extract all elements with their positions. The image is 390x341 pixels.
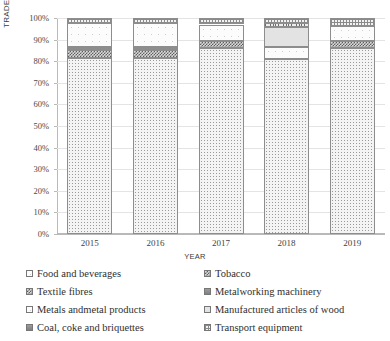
y-axis-tick-label: 10% <box>9 208 49 217</box>
legend-row: Metals andmetal productsManufactured art… <box>26 300 378 318</box>
legend-swatch-icon <box>26 288 33 295</box>
legend-row: Food and beveragesTobacco <box>26 264 378 282</box>
y-axis-tick-label: 0% <box>9 230 49 239</box>
legend-item[interactable]: Metalworking machinery <box>204 286 378 297</box>
stacked-column-chart: TRADE VALUE IN THOUSAND OF USD 0%10%20%3… <box>0 0 390 341</box>
bar-segment <box>67 23 112 47</box>
legend-label: Textile fibres <box>37 286 93 297</box>
bar-segment <box>330 26 375 41</box>
y-axis-tick-label: 50% <box>9 122 49 131</box>
x-axis-tick-label: 2017 <box>191 238 251 248</box>
legend-swatch-icon <box>204 324 211 331</box>
bar-segment <box>330 48 375 234</box>
legend-row: Coal, coke and briquettesTransport equip… <box>26 318 378 336</box>
bar-segment <box>264 59 309 234</box>
legend-label: Coal, coke and briquettes <box>37 322 144 333</box>
bar-segment <box>199 41 244 49</box>
x-axis-tick-label: 2018 <box>257 238 317 248</box>
bar-segment <box>264 23 309 26</box>
bar-segment <box>133 58 178 234</box>
bar-2016 <box>133 18 178 234</box>
legend-label: Tobacco <box>215 268 250 279</box>
y-axis-tick-mark <box>54 18 57 19</box>
legend-swatch-icon <box>26 306 33 313</box>
y-axis-tick-mark <box>54 234 57 235</box>
legend-item[interactable]: Tobacco <box>204 268 378 279</box>
y-axis-tick-label: 100% <box>9 14 49 23</box>
y-axis-tick-label: 20% <box>9 187 49 196</box>
bar-segment <box>133 50 178 58</box>
legend-swatch-icon <box>204 288 211 295</box>
bar-2018 <box>264 18 309 234</box>
legend-label: Food and beverages <box>37 268 121 279</box>
bar-segment <box>330 41 375 49</box>
y-axis-tick-label: 90% <box>9 36 49 45</box>
y-axis-tick-mark <box>54 212 57 213</box>
chart-legend: Food and beveragesTobaccoTextile fibresM… <box>26 264 378 336</box>
y-axis-tick-mark <box>54 169 57 170</box>
plot-area: 0%10%20%30%40%50%60%70%80%90%100% <box>57 18 385 234</box>
x-axis-tick-label: 2015 <box>60 238 120 248</box>
bar-segment <box>199 25 244 41</box>
bar-segment <box>199 48 244 234</box>
y-axis-tick-label: 60% <box>9 100 49 109</box>
legend-item[interactable]: Metals andmetal products <box>26 304 204 315</box>
y-axis-tick-label: 70% <box>9 79 49 88</box>
bar-segment <box>67 58 112 234</box>
legend-label: Metalworking machinery <box>215 286 321 297</box>
bar-segment <box>199 18 244 24</box>
y-axis-tick-mark <box>54 83 57 84</box>
bar-segment <box>264 47 309 59</box>
legend-swatch-icon <box>26 324 33 331</box>
legend-label: Transport equipment <box>215 322 302 333</box>
x-axis-tick-label: 2016 <box>125 238 185 248</box>
y-axis-tick-label: 30% <box>9 165 49 174</box>
bar-2017 <box>199 18 244 234</box>
y-axis-tick-mark <box>54 148 57 149</box>
bar-segment <box>67 47 112 50</box>
bar-segment <box>67 18 112 23</box>
bar-2015 <box>67 18 112 234</box>
bar-segment <box>133 23 178 47</box>
legend-item[interactable]: Textile fibres <box>26 286 204 297</box>
legend-item[interactable]: Transport equipment <box>204 322 378 333</box>
legend-item[interactable]: Food and beverages <box>26 268 204 279</box>
y-axis-tick-label: 40% <box>9 144 49 153</box>
y-axis-tick-label: 80% <box>9 57 49 66</box>
bar-segment <box>264 27 309 48</box>
bar-segment <box>67 50 112 58</box>
legend-swatch-icon <box>204 270 211 277</box>
x-axis-tick-label: 2019 <box>322 238 382 248</box>
bar-segment <box>133 47 178 50</box>
bar-segment <box>264 18 309 23</box>
legend-label: Manufactured articles of wood <box>215 304 344 315</box>
legend-item[interactable]: Coal, coke and briquettes <box>26 322 204 333</box>
bar-segment <box>330 18 375 26</box>
legend-item[interactable]: Manufactured articles of wood <box>204 304 378 315</box>
x-axis-title: YEAR <box>0 252 390 261</box>
legend-row: Textile fibresMetalworking machinery <box>26 282 378 300</box>
y-axis-tick-mark <box>54 104 57 105</box>
legend-swatch-icon <box>204 306 211 313</box>
y-axis-tick-mark <box>54 61 57 62</box>
y-axis-tick-mark <box>54 40 57 41</box>
gridline <box>57 234 385 235</box>
legend-swatch-icon <box>26 270 33 277</box>
y-axis-tick-mark <box>54 191 57 192</box>
y-axis-tick-mark <box>54 126 57 127</box>
legend-label: Metals andmetal products <box>37 304 145 315</box>
bar-segment <box>133 18 178 23</box>
bar-2019 <box>330 18 375 234</box>
